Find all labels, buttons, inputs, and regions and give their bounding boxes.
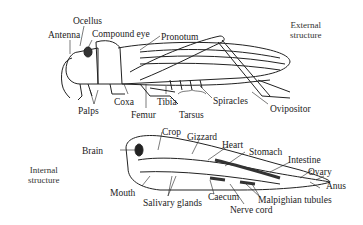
label-femur: Femur [131,110,156,120]
label-nerve-cord: Nerve cord [230,205,272,215]
label-coxa: Coxa [114,97,134,107]
label-intestine: Intestine [288,155,321,165]
label-heart: Heart [222,140,243,150]
label-pronotum: Pronotum [161,32,198,42]
label-anus: Anus [326,181,346,191]
label-antenna: Antenna [48,30,80,40]
label-compound-eye: Compound eye [92,29,150,39]
label-palps: Palps [78,106,99,116]
label-tibia: Tibia [157,97,177,107]
label-ocellus: Ocellus [73,16,102,26]
label-mouth: Mouth [110,188,135,198]
label-malpighian-tubules: Malpighian tubules [258,195,332,205]
label-ovipositor: Ovipositor [270,104,311,114]
internal-structure-title: Internal structure [28,165,60,185]
label-gizzard: Gizzard [187,132,217,142]
label-crop: Crop [162,127,181,137]
label-ovary: Ovary [308,167,332,177]
label-salivary-glands: Salivary glands [143,198,202,208]
external-grasshopper-drawing [61,36,290,104]
label-stomach: Stomach [249,147,282,157]
label-tarsus: Tarsus [179,110,204,120]
label-spiracles: Spiracles [213,96,248,106]
label-caecum: Caecum [208,192,239,202]
external-structure-title: External structure [290,20,322,40]
label-brain: Brain [82,146,103,156]
